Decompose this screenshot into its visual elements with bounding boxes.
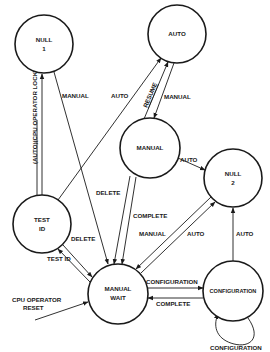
node-manual-wait: MANUAL WAIT xyxy=(88,264,148,324)
node-manual: MANUAL xyxy=(120,118,180,178)
node-auto-label: AUTO xyxy=(168,30,186,37)
edge-manual-to-manualwait-complete xyxy=(122,177,136,264)
node-null2-label-1: NULL xyxy=(225,170,242,177)
edge-label-testid-auto: AUTO xyxy=(111,92,129,99)
node-null-1: NULL 1 xyxy=(15,15,73,73)
node-configuration: CONFIGURATION xyxy=(203,261,263,321)
edge-label-manual-null2: AUTO xyxy=(180,156,198,163)
edge-label-complete-manual: COMPLETE xyxy=(133,212,167,219)
node-auto: AUTO xyxy=(148,5,206,63)
edge-label-config-auto: AUTO xyxy=(236,230,254,237)
node-testid-label-2: ID xyxy=(39,225,46,232)
edge-manualwait-to-testid xyxy=(58,249,90,282)
node-null1-label-1: NULL xyxy=(36,36,53,43)
node-testid-label-1: TEST xyxy=(34,216,50,223)
edge-label-reset-l1: CPU OPERATOR xyxy=(12,296,62,303)
edge-label-config-complete: COMPLETE xyxy=(156,300,190,307)
node-test-id: TEST ID xyxy=(13,195,71,253)
node-null2-label-2: 2 xyxy=(231,179,235,186)
edge-label-to-config: CONFIGURATION xyxy=(146,278,198,285)
node-null1-label-2: 1 xyxy=(42,45,46,52)
edge-label-delete-manual: DELETE xyxy=(96,189,120,196)
edge-label-testid-delete: DELETE xyxy=(71,235,95,242)
node-manualwait-label-1: MANUAL xyxy=(105,285,132,292)
edge-label-reset-l2: RESET xyxy=(23,304,44,311)
node-null-2: NULL 2 xyxy=(204,149,262,207)
node-manual-label: MANUAL xyxy=(137,144,164,151)
edge-label-auto-manual: MANUAL xyxy=(164,93,191,100)
edge-label-testid: TEST ID xyxy=(47,255,71,262)
edge-label-config-self: CONFIGURATION xyxy=(210,344,262,351)
edge-label-null2-manual: MANUAL xyxy=(139,230,166,237)
node-configuration-label: CONFIGURATION xyxy=(210,288,257,294)
node-manualwait-label-2: WAIT xyxy=(110,294,126,301)
edge-label-wait-null2-auto: AUTO xyxy=(187,230,205,237)
edge-label-null1-manual: MANUAL xyxy=(62,92,89,99)
state-diagram: (AUTO)(CPU OPERATOR LOCKOUT) MANUAL AUTO… xyxy=(0,0,270,352)
